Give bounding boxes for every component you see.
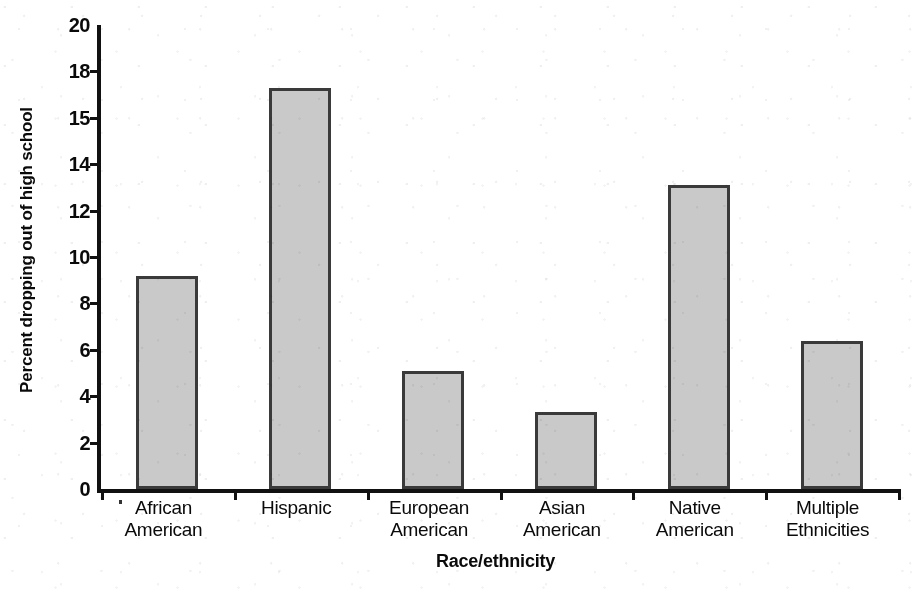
y-axis-tick-mark	[90, 117, 101, 120]
x-axis-tick-label-line2: American	[628, 519, 761, 541]
y-axis-tick-label: 15	[44, 106, 90, 129]
y-axis-tick-mark	[90, 210, 101, 213]
bar	[535, 412, 597, 489]
x-axis-tick-label-line2: American	[97, 519, 230, 541]
y-axis-tick-mark	[90, 163, 101, 166]
y-axis-tick-mark	[90, 349, 101, 352]
y-axis-tick-mark	[90, 70, 101, 73]
x-axis-tick-label-line1: Asian	[539, 497, 585, 518]
x-axis-tick-mark	[898, 489, 901, 500]
y-axis-tick-label: 10	[44, 246, 90, 269]
x-axis-tick-labels: AfricanAmericanHispanicEuropeanAmericanA…	[97, 497, 894, 541]
bar	[801, 341, 863, 489]
x-axis-title: Race/ethnicity	[97, 551, 894, 572]
bar-slot	[765, 25, 898, 489]
y-axis-tick-label: 20	[44, 14, 90, 37]
x-axis-tick-label-line1: Multiple	[796, 497, 859, 518]
bar	[269, 88, 331, 489]
y-axis-tick-label: 12	[44, 199, 90, 222]
bar-slot	[101, 25, 234, 489]
x-axis-tick-label-line2: American	[363, 519, 496, 541]
bar	[668, 185, 730, 489]
x-axis-tick-label: AfricanAmerican	[97, 497, 230, 541]
bar-slot	[632, 25, 765, 489]
y-axis-tick-label: 2	[44, 431, 90, 454]
x-axis-tick-label: EuropeanAmerican	[363, 497, 496, 541]
x-axis-tick-label: AsianAmerican	[495, 497, 628, 541]
x-axis-tick-label-line2: Ethnicities	[761, 519, 894, 541]
x-axis-tick-label: Hispanic	[230, 497, 363, 541]
bars-layer	[101, 25, 898, 489]
bar	[402, 371, 464, 489]
plot-area	[97, 25, 898, 493]
bar	[136, 276, 198, 489]
print-artifact-mark	[119, 500, 122, 504]
y-axis-tick-labels: 20181514121086420	[38, 0, 90, 594]
y-axis-tick-label: 4	[44, 385, 90, 408]
y-axis-tick-label: 8	[44, 292, 90, 315]
y-axis-tick-mark	[90, 442, 101, 445]
bar-slot	[367, 25, 500, 489]
bar-slot	[234, 25, 367, 489]
bar-chart-figure: Percent dropping out of high school 2018…	[0, 0, 914, 594]
x-axis-tick-label-line1: Hispanic	[261, 497, 331, 518]
x-axis-tick-label: NativeAmerican	[628, 497, 761, 541]
y-axis-tick-label: 6	[44, 338, 90, 361]
bar-slot	[499, 25, 632, 489]
y-axis-tick-mark	[90, 302, 101, 305]
x-axis-tick-label-line1: European	[389, 497, 469, 518]
y-axis-tick-label: 0	[44, 478, 90, 501]
y-axis-tick-mark	[90, 395, 101, 398]
x-axis-tick-label: MultipleEthnicities	[761, 497, 894, 541]
y-axis-tick-mark	[90, 256, 101, 259]
y-axis-tick-label: 14	[44, 153, 90, 176]
x-axis-tick-label-line2: American	[495, 519, 628, 541]
x-axis-tick-label-line1: Native	[669, 497, 721, 518]
y-axis-tick-label: 18	[44, 60, 90, 83]
x-axis-tick-label-line1: African	[135, 497, 192, 518]
